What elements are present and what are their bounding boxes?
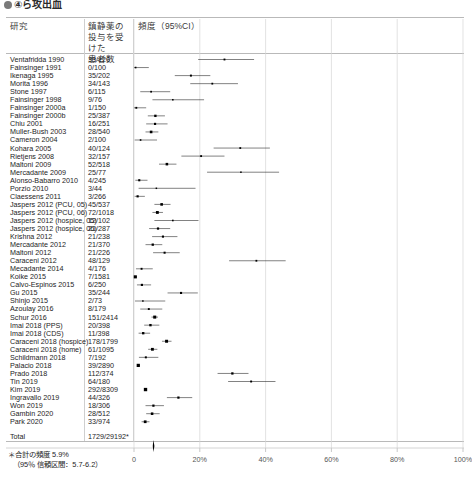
table-row: Maltoni 200952/518 [0,161,470,169]
footnote-line-2: （95％ 信頼区間：5.7-6.2） [13,460,102,470]
table-row: Alonso-Babarro 20104/245 [0,177,470,185]
table-row: Palacio 201839/2890 [0,362,470,370]
figure-banner: ④ら攻出血 [0,0,470,12]
header-rule-mid [6,53,464,54]
table-row: Fainsinger 2000b25/387 [0,112,470,120]
table-row: Porzio 20103/44 [0,185,470,193]
table-row: Rietjens 200832/157 [0,153,470,161]
axis-tick-label: 20% [193,455,207,464]
filled-circle-icon [4,1,12,9]
header-rule-top [6,17,464,18]
table-row: Imai 2018 (PPS)20/398 [0,322,470,330]
axis-tick-label: 40% [258,455,272,464]
column-header-study: 研究 [10,21,28,32]
table-row: Caraceni 201248/129 [0,257,470,265]
table-row: Park 202033/974 [0,418,470,426]
table-row: Kim 2019292/8309 [0,386,470,394]
banner-title-row: ④ら攻出血 [4,0,62,11]
table-row: Ikenaga 199535/202 [0,72,470,80]
axis-tick-label: 60% [324,455,338,464]
table-row: Shinjo 20152/73 [0,297,470,305]
study-row-list: Ventafridda 199033/120Fainsinger 19910/1… [0,56,470,426]
table-row: Cameron 20042/100 [0,136,470,144]
table-row: Krishna 201221/238 [0,233,470,241]
table-row: Morita 199634/143 [0,80,470,88]
table-row: Prado 2018112/374 [0,370,470,378]
table-row: Schildmann 20187/192 [0,354,470,362]
study-name: Park 2020 [10,418,43,426]
table-row: Schur 2016151/2414 [0,314,470,322]
table-rule-bottom [6,441,464,442]
table-row: Ventafridda 199033/120 [0,56,470,64]
axis-tick-label: 0 [132,455,136,464]
table-row: Gu 201535/244 [0,289,470,297]
total-row-count: 1729/29192* [88,433,129,441]
table-row: Won 201918/306 [0,402,470,410]
axis-tick-label: 100% [454,455,472,464]
table-row: Azoulay 20168/179 [0,305,470,313]
table-row: Tin 201964/180 [0,378,470,386]
footnote-line-1: ＊合計の頻度 5.9% [8,450,69,460]
table-row: Stone 19976/115 [0,88,470,96]
axis-tick-label: 80% [390,455,404,464]
table-row: Caraceni 2018 (home)61/1095 [0,346,470,354]
table-row: Fainsinger 19989/76 [0,96,470,104]
table-row: Ingravallo 201944/326 [0,394,470,402]
table-row: Calvo-Espinos 20156/250 [0,281,470,289]
table-row: Maltoni 201221/226 [0,249,470,257]
total-row-label: Total [10,433,25,441]
table-row: Fainsinger 19910/100 [0,64,470,72]
table-row: Chiu 200116/251 [0,120,470,128]
table-row: Mercadante 201221/370 [0,241,470,249]
table-row: Jaspers 2012 (hospice, 06)21/287 [0,225,470,233]
table-row: Kohara 200540/124 [0,145,470,153]
table-row: Muller-Bush 200328/540 [0,128,470,136]
table-row: Fainsinger 2000a1/150 [0,104,470,112]
banner-title: ④ら攻出血 [14,0,62,10]
table-row: Gambin 202028/512 [0,410,470,418]
column-header-rate: 頻度（95%CI） [138,21,200,32]
table-row: Mecadante 20144/176 [0,265,470,273]
patient-count: 33/974 [88,418,110,426]
